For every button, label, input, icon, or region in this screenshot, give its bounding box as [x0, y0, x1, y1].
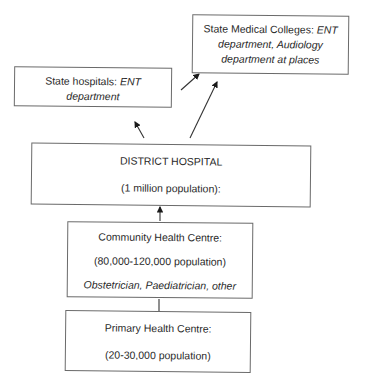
- edge-district-to-medical-colleges-arrow: [190, 82, 217, 138]
- node-label: DISTRICT HOSPITAL: [32, 153, 310, 171]
- edge-district-to-state-hospitals-arrow: [135, 122, 144, 138]
- node-district-hospital: DISTRICT HOSPITAL (1 million population)…: [31, 143, 312, 208]
- node-detail: department: [66, 90, 119, 103]
- node-staff: Obstetrician, Paediatrician, other: [84, 279, 236, 292]
- node-label: State hospitals:: [45, 74, 117, 87]
- node-community-health-centre: Community Health Centre: (80,000-120,000…: [67, 221, 254, 299]
- node-population: (20-30,000 population): [66, 347, 250, 364]
- node-label: Primary Health Centre:: [66, 320, 250, 337]
- node-population: (1 million population):: [32, 180, 310, 198]
- node-label: Community Health Centre:: [68, 229, 252, 246]
- node-state-hospitals: State hospitals: ENT department: [14, 66, 172, 108]
- node-population: (80,000-120,000 population): [68, 253, 252, 270]
- node-label: State Medical Colleges:: [203, 22, 313, 35]
- edge-state-hospitals-to-medical-colleges-arrow: [181, 74, 199, 90]
- node-detail: ENT: [120, 75, 141, 87]
- node-primary-health-centre: Primary Health Centre: (20-30,000 popula…: [65, 310, 252, 373]
- node-state-medical-colleges: State Medical Colleges: ENT department, …: [192, 14, 350, 75]
